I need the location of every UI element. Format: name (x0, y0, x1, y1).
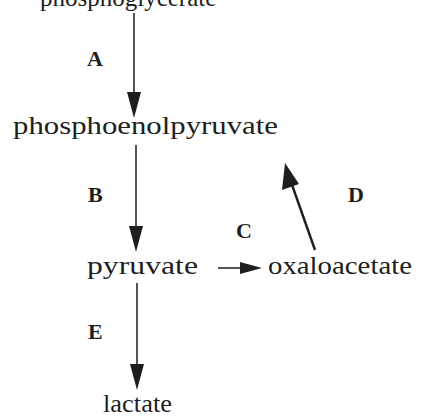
step-label-c: C (236, 218, 252, 243)
arrow-c (218, 262, 262, 274)
step-label-e: E (88, 319, 103, 344)
arrow-d (282, 163, 315, 250)
arrow-b (129, 145, 143, 252)
arrow-a (127, 13, 141, 118)
step-label-a: A (87, 46, 103, 71)
arrow-e (130, 283, 144, 390)
step-label-d: D (348, 182, 364, 207)
node-pyruvate: pyruvate (87, 252, 198, 279)
node-top-cropped: phosphoglycerate (40, 0, 216, 11)
pathway-diagram: phosphoglycerate A phosphoenolpyruvate B… (0, 0, 424, 419)
node-oxaloacetate: oxaloacetate (268, 252, 412, 279)
step-label-b: B (88, 182, 103, 207)
node-phosphoenolpyruvate: phosphoenolpyruvate (13, 112, 278, 139)
node-lactate: lactate (103, 390, 172, 417)
